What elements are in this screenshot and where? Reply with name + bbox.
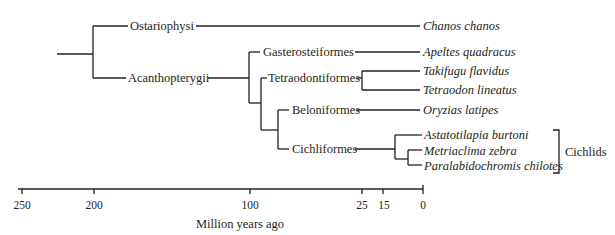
species-label-chanos: Chanos chanos [423,19,500,33]
species-label-paralabidochromis: Paralabidochromis chilotes [423,159,563,173]
axis-tick-label-0: 0 [420,199,426,211]
species-label-oryzias: Oryzias latipes [423,103,498,117]
species-label-metriaclima: Metriaclima zebra [423,144,517,158]
clade-label-ostariophysi: Ostariophysi [130,19,194,33]
species-label-astatotilapia: Astatotilapia burtoni [423,128,529,142]
species-label-apeltes: Apeltes quadracus [422,45,516,59]
axis-tick-label-100: 100 [241,199,259,211]
phylogenetic-tree: Ostariophysi Chanos chanos Acanthopteryg… [0,0,615,235]
clade-label-tetraodontiformes: Tetraodontiformes [268,71,360,85]
axis-tick-label-250: 250 [13,199,31,211]
clade-label-acanthopterygii: Acanthopterygii [128,71,210,85]
clade-label-gasterosteiformes: Gasterosteiformes [263,45,354,59]
axis-tick-label-15: 15 [378,199,390,211]
clade-label-cichliformes: Cichliformes [292,142,357,156]
clade-label-beloniformes: Beloniformes [292,103,360,117]
axis-tick-label-200: 200 [85,199,103,211]
species-label-tetraodon: Tetraodon lineatus [423,83,517,97]
species-label-takifugu: Takifugu flavidus [423,64,509,78]
axis-tick-label-25: 25 [356,199,368,211]
axis-title: Million years ago [196,217,284,231]
cichlids-bracket-label: Cichlids [565,145,607,159]
